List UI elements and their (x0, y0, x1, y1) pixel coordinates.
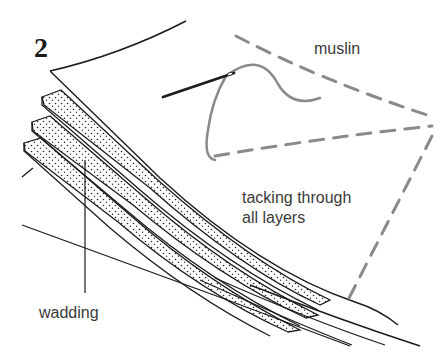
tacking-label-line-2: all layers (242, 208, 351, 228)
tacking-label: tacking through all layers (242, 188, 351, 228)
needle-icon (163, 72, 234, 97)
muslin-label: muslin (314, 39, 360, 59)
tacking-label-line-1: tacking through (242, 188, 351, 208)
thread (207, 65, 320, 160)
wadding-label: wadding (39, 303, 99, 323)
quilting-illustration: 2 muslin tacking through all layers wadd… (0, 0, 445, 364)
step-number: 2 (34, 34, 48, 62)
